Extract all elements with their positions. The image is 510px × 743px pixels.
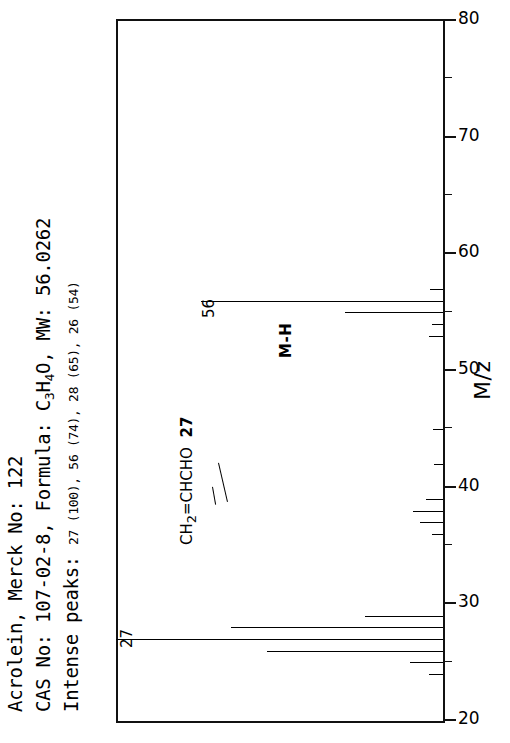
axis-tick-65 [445,194,452,195]
axis-label-20: 20 [458,710,480,727]
peak-label-27: 27 [118,629,136,648]
structure-ch: CH [178,523,196,545]
cas-formula-text: CAS No: 107-02-8, Formula: C [32,400,54,712]
peak-mz-57 [430,289,443,290]
axis-tick-40 [445,486,456,488]
formula-subscript-3: 3 [42,393,57,401]
axis-label-30: 30 [458,593,480,610]
axis-tick-55 [445,311,452,312]
peak-mz-25 [410,662,443,663]
peak-mz-27 [116,639,443,640]
peak-label-27-text: 27 [118,629,136,648]
peak-mz-39 [426,499,443,500]
axis-tick-75 [445,77,452,78]
peak-mz-54 [432,324,443,325]
axis-label-70: 70 [458,127,480,144]
axis-tick-70 [445,136,456,138]
axis-tick-80 [445,19,456,21]
axis-tick-20 [445,719,456,721]
peak-mz-26 [267,651,443,652]
peak-mz-28 [231,627,443,628]
structure-subscript: 2 [184,515,199,523]
axis-label-40: 40 [458,477,480,494]
mz-axis-title: M/z [470,361,495,400]
compound-title-text: Acrolein, Merck No: 122 [4,456,26,712]
structure-fragment-mass: 27 [178,417,196,438]
axis-tick-45 [445,427,452,428]
peak-mz-56 [201,301,443,302]
mh-annotation-text: M-H [277,323,295,358]
axis-label-60: 60 [458,243,480,260]
spectrum-plot-area [116,19,445,723]
intense-peaks-line: Intense peaks: 27 (100), 56 (74), 28 (65… [60,281,82,712]
peak-label-56-text: 56 [200,299,218,318]
axis-tick-25 [445,661,452,662]
peak-mz-55 [345,312,443,313]
axis-label-80: 80 [458,10,480,27]
peak-mz-37 [420,522,443,523]
peak-mz-24 [429,674,443,675]
peak-mz-38 [413,511,443,512]
formula-o-mw: O, MW: 56.0262 [32,218,54,374]
structure-rest: =CHCHO [178,447,196,515]
structure-annotation: CH2=CHCHO 27 [178,417,199,545]
peak-mz-42 [434,464,443,465]
compound-title-line: Acrolein, Merck No: 122 [4,456,26,712]
peak-label-56: 56 [200,299,218,318]
axis-tick-50 [445,369,456,371]
axis-tick-30 [445,602,456,604]
peak-mz-53 [429,336,443,337]
formula-subscript-4: 4 [42,374,57,382]
formula-line: CAS No: 107-02-8, Formula: C3H4O, MW: 56… [32,218,57,712]
peak-mz-29 [365,616,443,617]
formula-h: H [32,381,54,392]
mh-annotation: M-H [277,323,295,358]
intense-peaks-values: 27 (100), 56 (74), 28 (65), 26 (54) [66,281,81,544]
axis-tick-35 [445,544,452,545]
peak-mz-36 [432,534,443,535]
axis-tick-60 [445,252,456,254]
peak-mz-45 [433,429,443,430]
intense-peaks-label: Intense peaks: [60,545,82,712]
